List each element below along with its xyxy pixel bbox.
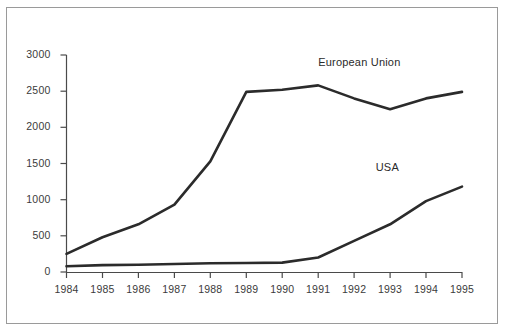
x-tick-label: 1984 [47, 283, 87, 295]
x-tick-label: 1990 [262, 283, 302, 295]
x-tick-label: 1986 [118, 283, 158, 295]
y-tick-label: 500 [11, 229, 51, 241]
x-tick-label: 1989 [226, 283, 266, 295]
series-line-usa [67, 187, 463, 267]
x-tick-label: 1988 [190, 283, 230, 295]
x-tick-label: 1994 [406, 283, 446, 295]
y-tick-label: 3000 [11, 48, 51, 60]
x-tick-label: 1985 [82, 283, 122, 295]
y-axis-ticks [61, 55, 67, 272]
x-tick-label: 1991 [298, 283, 338, 295]
x-tick-label: 1992 [334, 283, 374, 295]
y-tick-label: 0 [11, 265, 51, 277]
y-tick-label: 2500 [11, 84, 51, 96]
x-tick-label: 1993 [370, 283, 410, 295]
series-annotation: USA [376, 161, 399, 173]
series-annotation: European Union [318, 56, 400, 68]
series-line-european-union [67, 85, 463, 254]
x-tick-label: 1995 [442, 283, 482, 295]
x-tick-label: 1987 [154, 283, 194, 295]
y-tick-label: 1000 [11, 193, 51, 205]
chart-figure: 050010001500200025003000 198419851986198… [0, 0, 506, 333]
y-tick-label: 1500 [11, 157, 51, 169]
y-tick-label: 2000 [11, 120, 51, 132]
